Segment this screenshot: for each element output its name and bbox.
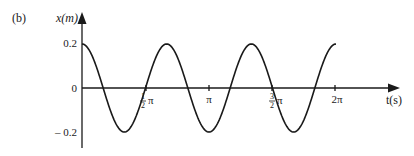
y-tick-0: 0	[72, 82, 78, 94]
y-tick-neg-0.2: – 0.2	[54, 126, 77, 138]
x-axis-arrow-icon	[388, 84, 400, 93]
svg-text:π: π	[148, 94, 154, 106]
panel-label: (b)	[12, 11, 26, 25]
y-axis-arrow-icon	[78, 12, 87, 24]
y-tick-0.2: 0.2	[63, 37, 77, 49]
svg-text:2: 2	[270, 101, 274, 110]
x-tick-pi: π	[206, 93, 212, 105]
y-axis-label: x(m)	[55, 11, 78, 25]
x-tick-two-pi: 2π	[331, 93, 343, 105]
x-axis-label: t(s)	[386, 93, 402, 107]
oscillation-chart: (b) x(m) t(s) 0.2 0 – 0.2 1 2 π π 3 2 π …	[0, 0, 414, 156]
